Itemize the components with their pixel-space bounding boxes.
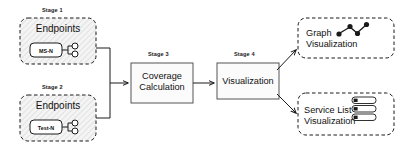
diagram-canvas: Stage 1 Endpoints MS-N Stage 2 Endpoints… bbox=[0, 0, 404, 151]
service-list-visualization-line1: Service List bbox=[304, 105, 352, 115]
stage-4-box-line1: Visualization bbox=[217, 76, 279, 86]
stage-1-group-title: Endpoints bbox=[20, 23, 96, 34]
stage-3-box-line1: Coverage bbox=[131, 71, 193, 81]
stage-3-box-line2: Calculation bbox=[131, 82, 193, 92]
connector-visualization-to-graph bbox=[277, 50, 296, 70]
stage-2-node-label: Test-N bbox=[30, 125, 62, 131]
stage-1-label: Stage 1 bbox=[42, 7, 63, 13]
graph-visualization-line2: Visualization bbox=[306, 39, 357, 49]
list-rows-icon bbox=[352, 97, 376, 121]
graph-visualization-line1: Graph bbox=[306, 28, 332, 38]
connector-visualization-to-service-list bbox=[277, 94, 296, 113]
service-list-visualization-line2: Visualization bbox=[304, 116, 355, 126]
stage-3-label: Stage 3 bbox=[148, 51, 169, 57]
stage-2-group-title: Endpoints bbox=[20, 100, 96, 111]
connector-endpoints-merge bbox=[96, 48, 128, 118]
stage-4-label: Stage 4 bbox=[234, 51, 255, 57]
stage-1-node-label: MS-N bbox=[30, 48, 62, 54]
stage-2-label: Stage 2 bbox=[42, 84, 63, 90]
